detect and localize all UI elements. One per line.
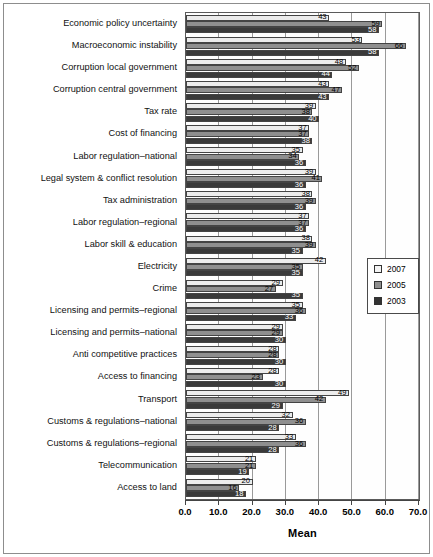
category-label: Corruption local government — [0, 56, 181, 78]
x-axis-title: Mean — [185, 527, 420, 539]
x-tick-label: 60.0 — [375, 506, 394, 517]
x-axis-ticks: 0.010.020.030.040.050.060.070.0 — [0, 500, 433, 512]
bar-2003 — [186, 359, 286, 365]
bar-2007 — [186, 81, 329, 87]
bar-2007 — [186, 37, 362, 43]
bar-value-label: 19 — [238, 468, 246, 475]
bar-2005 — [186, 286, 276, 292]
bar-2003 — [186, 27, 379, 33]
bars-container: 4359585366584852444347433938403737383534… — [186, 13, 419, 499]
bar-2007 — [186, 169, 316, 175]
category-label-text: Customs & regulations–regional — [47, 438, 177, 448]
bar-2003 — [186, 315, 296, 321]
category-label: Tax administration — [0, 189, 181, 211]
bar-group: 353436 — [186, 146, 419, 168]
bar-2007 — [186, 390, 349, 396]
bar-2003 — [186, 248, 303, 254]
legend-item-2007[interactable]: 2007 — [374, 264, 418, 274]
bar-2007 — [186, 258, 326, 264]
bar-value-label: 36 — [295, 440, 303, 447]
bar-2005 — [186, 264, 303, 270]
bar-2007 — [186, 147, 303, 153]
bar-group: 435958 — [186, 13, 419, 35]
category-label: Transport — [0, 388, 181, 410]
bar-2005 — [186, 441, 306, 447]
chart-figure: Economic policy uncertaintyMacroeconomic… — [0, 0, 433, 557]
category-label-text: Macroeconomic instability — [72, 40, 177, 50]
category-label: Telecommunication — [0, 454, 181, 476]
bar-group: 292930 — [186, 322, 419, 344]
bar-value-label: 43 — [318, 93, 326, 100]
bar-group: 373736 — [186, 212, 419, 234]
bar-group: 282830 — [186, 344, 419, 366]
category-label: Access to financing — [0, 365, 181, 387]
category-label: Labor skill & education — [0, 233, 181, 255]
bar-2003 — [186, 381, 286, 387]
bar-group: 393840 — [186, 101, 419, 123]
bar-value-label: 39 — [305, 241, 313, 248]
category-label: Corruption central government — [0, 78, 181, 100]
category-label-text: Legal system & conflict resolution — [41, 173, 177, 183]
bar-group: 383936 — [186, 190, 419, 212]
bar-2005 — [186, 65, 359, 71]
bar-2005 — [186, 419, 306, 425]
category-label-text: Tax rate — [144, 106, 177, 116]
x-tick-mark — [185, 500, 186, 505]
bar-value-label: 35 — [292, 269, 300, 276]
x-tick-mark — [318, 500, 319, 505]
legend-item-2005[interactable]: 2005 — [374, 280, 418, 290]
category-label-text: Transport — [138, 394, 177, 404]
category-label-text: Telecommunication — [98, 460, 177, 470]
category-label: Crime — [0, 277, 181, 299]
category-label: Tax rate — [0, 100, 181, 122]
category-label-text: Labor regulation–regional — [73, 217, 177, 227]
bar-value-label: 36 — [295, 307, 303, 314]
category-label-text: Electricity — [138, 261, 177, 271]
bar-value-label: 18 — [235, 490, 243, 497]
bar-value-label: 33 — [285, 313, 293, 320]
bar-2007 — [186, 191, 312, 197]
bar-2003 — [186, 182, 306, 188]
bar-value-label: 52 — [348, 64, 356, 71]
bar-value-label: 53 — [351, 36, 359, 43]
bar-group: 282330 — [186, 366, 419, 388]
x-tick-mark — [385, 500, 386, 505]
category-label-text: Corruption local government — [62, 62, 177, 72]
bar-value-label: 28 — [268, 367, 276, 374]
legend-item-2003[interactable]: 2003 — [374, 296, 418, 306]
bar-group: 373738 — [186, 123, 419, 145]
bar-value-label: 30 — [275, 380, 283, 387]
bar-value-label: 36 — [295, 203, 303, 210]
legend-swatch-icon — [374, 297, 382, 305]
bar-group: 536658 — [186, 35, 419, 57]
bar-value-label: 32 — [282, 411, 290, 418]
category-axis-labels: Economic policy uncertaintyMacroeconomic… — [0, 12, 181, 500]
bar-2005 — [186, 109, 312, 115]
category-label-text: Corruption central government — [53, 84, 177, 94]
category-label: Licensing and permits–national — [0, 321, 181, 343]
category-label: Anti competitive practices — [0, 343, 181, 365]
bar-value-label: 66 — [395, 42, 403, 49]
bar-2003 — [186, 425, 279, 431]
bar-value-label: 20 — [242, 477, 250, 484]
legend-label: 2007 — [387, 264, 406, 274]
category-label-text: Cost of financing — [109, 128, 177, 138]
x-tick-mark — [218, 500, 219, 505]
legend-label: 2005 — [387, 280, 406, 290]
bar-2003 — [186, 94, 329, 100]
x-tick-label: 40.0 — [309, 506, 328, 517]
bar-value-label: 41 — [311, 174, 319, 181]
bar-2007 — [186, 368, 279, 374]
bar-value-label: 29 — [272, 402, 280, 409]
bar-2007 — [186, 302, 303, 308]
bar-2007 — [186, 236, 312, 242]
bar-2005 — [186, 397, 326, 403]
x-tick-label: 20.0 — [242, 506, 261, 517]
bar-2003 — [186, 116, 319, 122]
bar-2003 — [186, 72, 332, 78]
category-label-text: Licensing and permits–national — [50, 327, 177, 337]
bar-group: 212119 — [186, 455, 419, 477]
bar-2003 — [186, 226, 306, 232]
bar-value-label: 36 — [295, 417, 303, 424]
bar-value-label: 30 — [275, 358, 283, 365]
